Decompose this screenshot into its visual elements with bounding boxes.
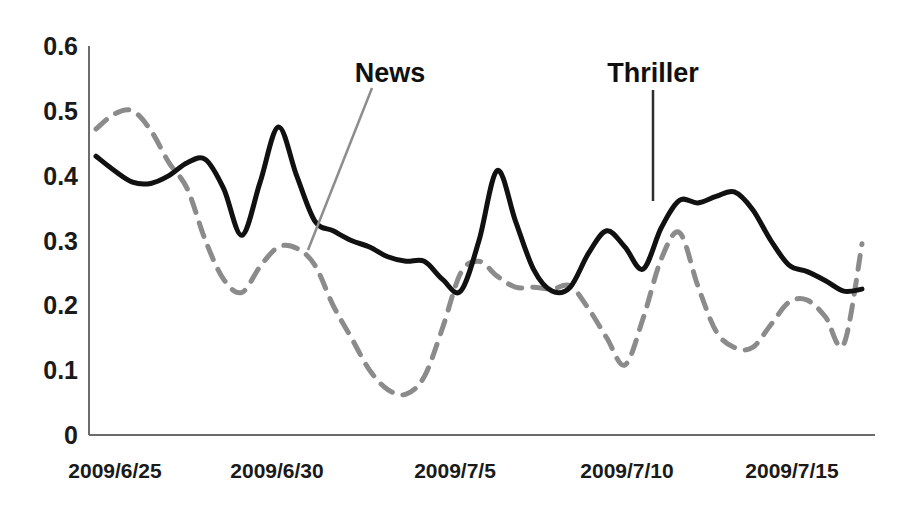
series-paths xyxy=(96,110,862,395)
chart-container: 00.10.20.30.40.50.6 2009/6/252009/6/3020… xyxy=(0,0,897,514)
x-axis-tick-labels: 2009/6/252009/6/302009/7/52009/7/102009/… xyxy=(68,459,839,482)
plot-annotations: NewsThriller xyxy=(308,58,699,250)
series-line-thriller xyxy=(96,127,862,293)
x-tick-label: 2009/6/25 xyxy=(68,459,162,482)
y-tick-label: 0.1 xyxy=(43,356,78,384)
annotation-label-news: News xyxy=(355,58,426,88)
x-tick-label: 2009/6/30 xyxy=(230,459,323,482)
y-axis-tick-labels: 00.10.20.30.40.50.6 xyxy=(43,32,78,449)
x-tick-label: 2009/7/5 xyxy=(414,459,496,482)
series-line-news xyxy=(96,110,862,395)
y-tick-label: 0.4 xyxy=(43,162,78,190)
y-tick-label: 0.3 xyxy=(43,227,78,255)
x-tick-label: 2009/7/10 xyxy=(580,459,673,482)
annotation-leader-line xyxy=(308,88,372,250)
y-tick-label: 0.2 xyxy=(43,291,78,319)
y-tick-label: 0.5 xyxy=(43,97,78,125)
y-tick-label: 0 xyxy=(64,421,78,449)
annotation-label-thriller: Thriller xyxy=(607,58,699,88)
y-tick-label: 0.6 xyxy=(43,32,78,60)
x-tick-label: 2009/7/15 xyxy=(745,459,839,482)
line-chart: 00.10.20.30.40.50.6 2009/6/252009/6/3020… xyxy=(0,0,897,514)
